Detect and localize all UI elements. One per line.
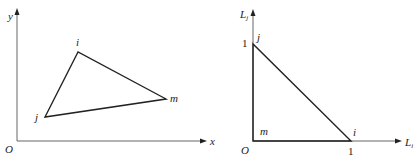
- li-tick-1-label: 1: [348, 145, 354, 157]
- x-axis-label: x: [209, 135, 215, 147]
- lj-axis-label: Lj: [239, 8, 248, 22]
- triangle-ijm: [45, 52, 166, 117]
- right-figure: Lj Li 1 1 O j i m: [239, 8, 413, 157]
- vertex-i-label: i: [76, 36, 79, 48]
- vertex-i-label: i: [353, 126, 356, 138]
- y-axis-arrow-icon: [15, 8, 20, 15]
- vertex-m-label: m: [260, 125, 268, 137]
- vertex-j-label: j: [33, 111, 38, 123]
- lj-axis-arrow-icon: [251, 9, 256, 16]
- vertex-j-label: j: [255, 31, 260, 43]
- origin-label: O: [5, 143, 13, 155]
- li-axis-arrow-icon: [395, 139, 402, 144]
- diagram-canvas: y x O i j m Lj Li 1 1 O j i m: [0, 0, 419, 162]
- vertex-m-label: m: [170, 92, 178, 104]
- origin-label: O: [241, 144, 249, 156]
- x-axis-arrow-icon: [200, 139, 207, 144]
- y-axis-label: y: [7, 10, 13, 22]
- li-axis-label: Li: [404, 136, 413, 150]
- lj-tick-1-label: 1: [242, 37, 248, 49]
- left-figure: y x O i j m: [5, 8, 215, 155]
